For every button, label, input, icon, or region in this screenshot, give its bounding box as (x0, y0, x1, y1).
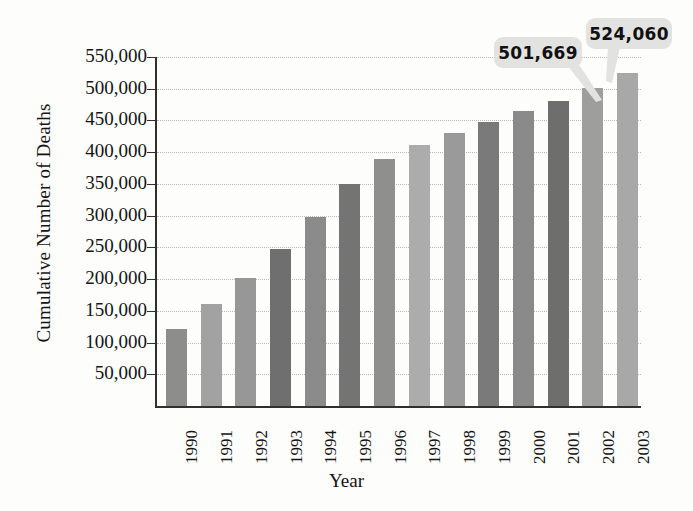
x-axis-tick-label: 1995 (356, 404, 376, 464)
x-axis-tick-label: 1993 (287, 404, 307, 464)
y-axis-tick-label: 300,000 (85, 204, 147, 226)
x-axis-tick-label: 1997 (425, 404, 445, 464)
y-axis-tick-labels: 550,000500,000450,000400,000350,000300,0… (40, 50, 147, 408)
x-axis-tick-label: 1994 (321, 404, 341, 464)
x-axis-tick-label: 1991 (217, 404, 237, 464)
x-axis-tick-label: 1992 (252, 404, 272, 464)
y-axis-tick-label: 200,000 (85, 267, 147, 289)
bar[interactable] (409, 145, 430, 406)
y-axis-tick-label: 400,000 (85, 140, 147, 162)
x-axis-tick-label: 2000 (530, 404, 550, 464)
y-axis-tick-label: 250,000 (85, 235, 147, 257)
x-axis-tick-label: 1990 (182, 404, 202, 464)
bar[interactable] (617, 73, 638, 406)
bar[interactable] (374, 159, 395, 406)
bar[interactable] (513, 111, 534, 406)
x-axis-tick-label: 1996 (391, 404, 411, 464)
bar[interactable] (478, 122, 499, 406)
bar[interactable] (582, 88, 603, 406)
x-axis-tick-label: 1998 (460, 404, 480, 464)
bar[interactable] (235, 278, 256, 406)
y-axis-tick-label: 450,000 (85, 108, 147, 130)
x-axis-tick-labels: 1990199119921993199419951996199719981999… (155, 410, 641, 470)
callout-label: 524,060 (586, 18, 672, 49)
callout-pointer-icon (582, 47, 642, 91)
y-axis-tick-label: 500,000 (85, 77, 147, 99)
bar[interactable] (339, 184, 360, 406)
x-axis-tick-label: 2001 (564, 404, 584, 464)
callout-label: 501,669 (494, 37, 582, 68)
y-axis-tick-label: 350,000 (85, 172, 147, 194)
y-axis-tick-label: 550,000 (85, 45, 147, 67)
bar[interactable] (548, 101, 569, 406)
bar[interactable] (166, 329, 187, 406)
x-axis-title: Year (0, 470, 693, 492)
y-axis-tick-label: 150,000 (85, 299, 147, 321)
y-axis-tick-label: 50,000 (95, 362, 147, 384)
bar[interactable] (201, 304, 222, 406)
bar[interactable] (444, 133, 465, 406)
bar[interactable] (270, 249, 291, 406)
y-axis-tick-label: 100,000 (85, 331, 147, 353)
x-axis-tick-label: 2003 (634, 404, 654, 464)
x-axis-tick-label: 2002 (599, 404, 619, 464)
x-axis-tick-label: 1999 (495, 404, 515, 464)
bar[interactable] (305, 217, 326, 406)
y-axis-line (155, 57, 157, 408)
bar-chart: Cumulative Number of Deaths 550,000500,0… (0, 0, 693, 511)
